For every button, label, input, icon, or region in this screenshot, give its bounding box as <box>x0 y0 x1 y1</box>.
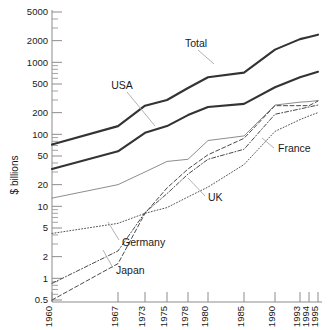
leader-line-france <box>262 138 274 148</box>
y-axis-minor-ticks <box>52 19 58 294</box>
series-label-uk: UK <box>208 191 223 203</box>
y-tick-label: 2000 <box>27 35 48 46</box>
x-axis-tick-labels: 1960196719731975197819801985199019931994… <box>43 306 320 327</box>
series-line-usa <box>52 72 318 169</box>
y-tick-label: 100 <box>32 129 48 140</box>
x-tick-label: 1978 <box>179 306 190 327</box>
leader-line-germany <box>108 222 119 240</box>
y-tick-label: 50 <box>37 150 48 161</box>
x-tick-label: 1973 <box>136 306 147 327</box>
y-tick-label: 1 <box>43 273 48 284</box>
series-line-germany <box>52 105 318 283</box>
x-tick-label: 1990 <box>266 306 277 327</box>
series-label-france: France <box>278 142 311 154</box>
y-tick-label: 500 <box>32 78 48 89</box>
line-chart-plot: 0.5125102050100200500100020005000 196019… <box>0 0 328 330</box>
y-tick-label: 0.5 <box>35 294 48 305</box>
y-tick-label: 10 <box>37 201 48 212</box>
series-line-total <box>52 35 318 145</box>
series-annotations: TotalUSAFranceUKGermanyJapan <box>111 37 311 276</box>
y-tick-label: 5000 <box>27 6 48 17</box>
series-line-japan <box>52 101 318 300</box>
chart-container: 0.5125102050100200500100020005000 196019… <box>0 0 328 330</box>
data-series <box>52 35 318 300</box>
y-axis-title: $ billions <box>9 156 20 195</box>
x-tick-label: 1975 <box>158 306 169 327</box>
series-label-usa: USA <box>111 79 133 91</box>
series-label-japan: Japan <box>116 264 145 276</box>
x-tick-label: 1995 <box>309 306 320 327</box>
x-axis-ticks <box>52 292 318 302</box>
series-line-uk <box>52 113 318 234</box>
series-label-germany: Germany <box>122 236 166 248</box>
leader-line-total <box>198 50 214 64</box>
x-tick-label: 1980 <box>199 306 210 327</box>
y-tick-label: 2 <box>43 251 48 262</box>
y-tick-label: 20 <box>37 179 48 190</box>
y-axis-tick-labels: 0.5125102050100200500100020005000 <box>27 6 48 305</box>
leader-line-japan <box>103 250 113 268</box>
leader-line-usa <box>127 92 155 126</box>
y-tick-label: 200 <box>32 107 48 118</box>
x-tick-label: 1967 <box>109 306 120 327</box>
x-tick-label: 1960 <box>43 306 54 327</box>
axes <box>52 10 322 302</box>
series-label-total: Total <box>185 37 207 49</box>
y-axis-ticks <box>52 12 62 300</box>
x-tick-label: 1985 <box>235 306 246 327</box>
y-tick-label: 5 <box>43 222 48 233</box>
y-tick-label: 1000 <box>27 57 48 68</box>
